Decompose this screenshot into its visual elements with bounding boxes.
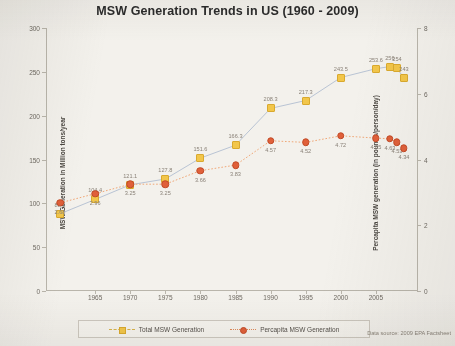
data-point[interactable] [337,74,345,82]
y-tick-label-left: 250 [29,68,40,75]
data-point[interactable] [372,134,380,142]
y-tick-left [42,291,46,292]
data-point[interactable] [126,180,134,188]
data-point-label: 4.72 [335,142,346,148]
x-tick-label: 1995 [298,294,312,301]
data-point[interactable] [162,180,170,188]
data-point-label: 208.3 [264,96,278,102]
x-tick-label: 1975 [158,294,172,301]
data-point[interactable] [232,161,240,169]
source-note: Data source: 2009 EPA Factsheet [367,330,451,336]
y-tick-right [417,291,421,292]
y-tick-label-left: 150 [29,156,40,163]
legend-item-total[interactable]: Total MSW Generation [109,326,204,333]
series-line-1 [60,67,404,214]
x-tick-label: 1965 [88,294,102,301]
y-tick-label-right: 4 [424,156,428,163]
chart-legend: Total MSW Generation Percapita MSW Gener… [78,320,370,338]
data-point[interactable] [197,167,205,175]
x-tick-label: 1980 [193,294,207,301]
data-point-label: 243 [399,66,408,72]
y-tick-label-left: 0 [36,288,40,295]
data-point-label: 3.25 [160,190,171,196]
data-point-label: 243.5 [334,66,348,72]
data-point-label: 4.52 [300,148,311,154]
legend-label-percapita: Percapita MSW Generation [260,326,339,333]
data-point[interactable] [232,141,240,149]
data-point[interactable] [337,132,345,140]
x-tick-label: 2000 [334,294,348,301]
data-point-label: 4.34 [399,154,410,160]
data-point-label: 3.66 [195,177,206,183]
chart-figure: MSW Generation Trends in US (1960 - 2009… [0,0,455,346]
data-point[interactable] [302,97,310,105]
plot-area: 050100150200250300 02468 196519701975198… [46,28,418,291]
y-tick-label-right: 2 [424,222,428,229]
legend-marker-total-icon [109,326,135,333]
data-point[interactable] [267,104,275,112]
data-point-label: 254 [392,56,401,62]
y-tick-label-right: 8 [424,25,428,32]
legend-label-total: Total MSW Generation [139,326,204,333]
x-tick-label: 1990 [263,294,277,301]
data-point[interactable] [267,137,275,145]
legend-item-percapita[interactable]: Percapita MSW Generation [230,326,339,333]
data-point-label: 253.6 [369,57,383,63]
data-point-label: 2.96 [90,200,101,206]
data-point-label: 3.25 [125,190,136,196]
y-tick-label-left: 50 [33,244,40,251]
data-point-label: 151.6 [193,146,207,152]
legend-marker-percapita-icon [230,326,256,333]
y-tick-label-right: 0 [424,288,428,295]
chart-title: MSW Generation Trends in US (1960 - 2009… [0,4,455,18]
data-point-label: 4.65 [370,144,381,150]
y-tick-label-left: 200 [29,112,40,119]
x-tick-label: 1970 [123,294,137,301]
data-point-label: 217.3 [299,89,313,95]
data-point[interactable] [400,145,408,153]
data-point[interactable] [56,199,64,207]
data-point[interactable] [302,139,310,147]
y-tick-label-left: 300 [29,25,40,32]
data-point[interactable] [400,74,408,82]
data-point-label: 2.68 [55,209,66,215]
data-point-label: 4.57 [265,147,276,153]
data-point[interactable] [196,154,204,162]
data-point[interactable] [372,65,380,73]
data-point[interactable] [393,138,401,146]
x-tick-label: 1985 [228,294,242,301]
series-lines [46,28,418,291]
data-point-label: 127.8 [158,167,172,173]
x-tick-label: 2005 [369,294,383,301]
data-point[interactable] [91,190,99,198]
y-tick-label-left: 100 [29,200,40,207]
data-point-label: 121.1 [123,173,137,179]
y-tick-label-right: 6 [424,90,428,97]
data-point-label: 3.83 [230,171,241,177]
data-point-label: 166.3 [229,133,243,139]
